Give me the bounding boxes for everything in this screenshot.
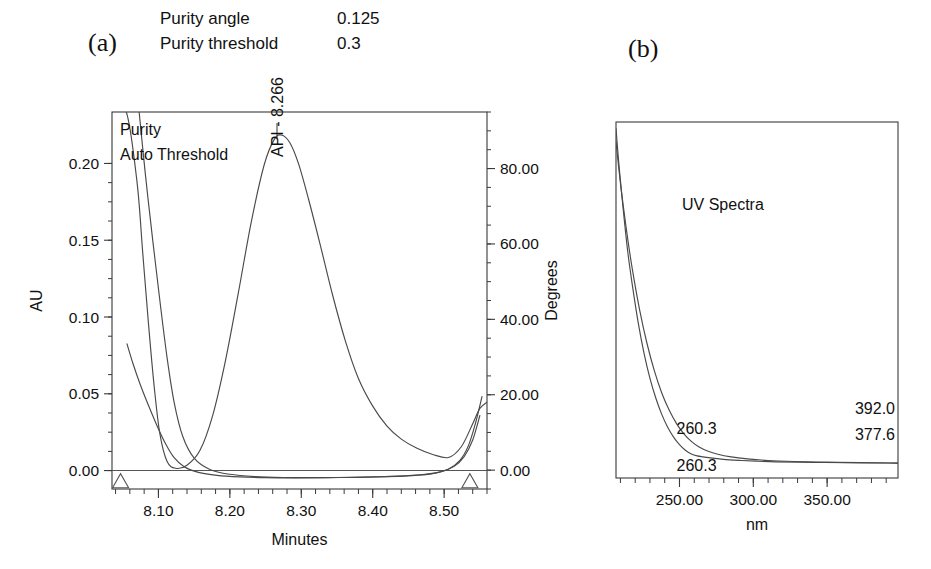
x-tick-label: 8.50	[429, 502, 460, 519]
x-tick-label: 300.00	[730, 491, 778, 508]
x-tick-label: 250.00	[656, 491, 704, 508]
y-tick-label: 0.00	[69, 462, 100, 479]
x-tick-label: 8.20	[215, 502, 246, 519]
legend-auto-threshold: Auto Threshold	[120, 146, 228, 163]
y-tick-label: 0.15	[69, 232, 99, 249]
chromatogram-purity-chart: 0.000.050.100.150.20AU0.0020.0040.0060.0…	[0, 0, 600, 569]
integration-marker-triangle	[462, 474, 478, 488]
y2-tick-label: 20.00	[500, 386, 539, 403]
x-tick-label: 8.10	[143, 502, 174, 519]
x-axis-title: Minutes	[271, 531, 327, 548]
annotation-392: 392.0	[855, 400, 895, 417]
integration-marker-triangle	[113, 474, 129, 488]
y2-tick-label: 0.00	[500, 462, 531, 479]
y2-tick-label: 40.00	[500, 311, 539, 328]
x-tick-label: 8.30	[286, 502, 317, 519]
y2-tick-label: 60.00	[500, 235, 539, 252]
annotation-377: 377.6	[855, 426, 895, 443]
plot-frame-b	[616, 122, 898, 478]
uv-spectra-title: UV Spectra	[682, 196, 764, 213]
legend-purity: Purity	[120, 121, 161, 138]
purity-trace	[127, 344, 482, 478]
uv-spectra-svg: 250.00300.00350.00nmUV Spectra260.3260.3…	[590, 0, 931, 569]
y-tick-label: 0.05	[69, 385, 99, 402]
uv-spectra-chart: 250.00300.00350.00nmUV Spectra260.3260.3…	[590, 0, 931, 569]
chromatogram-svg: 0.000.050.100.150.20AU0.0020.0040.0060.0…	[0, 0, 600, 569]
annotation-260-lower: 260.3	[677, 457, 717, 474]
x-tick-label: 350.00	[803, 491, 851, 508]
y2-tick-label: 80.00	[500, 160, 539, 177]
x-tick-label: 8.40	[358, 502, 389, 519]
y-tick-label: 0.10	[69, 309, 100, 326]
annotation-260-upper: 260.3	[677, 420, 717, 437]
peak-label-api: API - 8.266	[269, 77, 286, 157]
x-axis-title: nm	[746, 516, 768, 533]
y2-axis-title: Degrees	[543, 260, 560, 320]
auto-threshold-trace	[139, 112, 480, 478]
y-axis-title: AU	[28, 289, 45, 311]
y-tick-label: 0.20	[69, 155, 100, 172]
